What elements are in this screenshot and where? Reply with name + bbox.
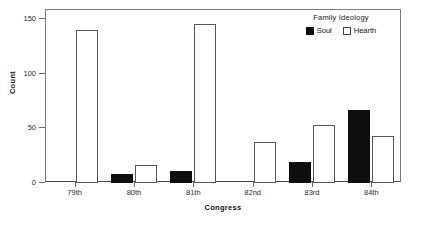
x-tick-label: 84th	[341, 188, 401, 197]
x-tick-mark	[312, 182, 313, 187]
x-tick-mark	[75, 182, 76, 187]
legend-item-hearth: Hearth	[343, 26, 377, 35]
bar-chart: Count 050100150 79th80th81th82nd83rd84th…	[0, 0, 425, 227]
x-tick-label: 83rd	[282, 188, 342, 197]
bar-83rd-hearth	[313, 125, 335, 183]
legend: Family Ideology SoulHearth	[285, 13, 397, 35]
bar-81th-soul	[170, 171, 192, 183]
legend-swatch-soul-icon	[306, 27, 314, 35]
y-tick-label: 50	[2, 123, 36, 132]
x-tick-mark	[253, 182, 254, 187]
bar-84th-hearth	[372, 136, 394, 183]
bar-79th-hearth	[76, 30, 98, 183]
x-tick-label: 79th	[45, 188, 105, 197]
x-axis-label: Congress	[45, 203, 401, 212]
x-tick-label: 81th	[163, 188, 223, 197]
y-tick-mark	[39, 182, 45, 183]
bar-83rd-soul	[289, 162, 311, 183]
legend-items: SoulHearth	[285, 26, 397, 35]
y-axis-label: Count	[8, 53, 17, 113]
bar-80th-soul	[111, 174, 133, 183]
y-tick-label: 0	[2, 178, 36, 187]
legend-swatch-hearth-icon	[343, 27, 351, 35]
x-tick-mark	[371, 182, 372, 187]
legend-label: Hearth	[354, 26, 377, 35]
y-tick-label: 150	[2, 13, 36, 22]
x-tick-label: 80th	[104, 188, 164, 197]
legend-title: Family Ideology	[285, 13, 397, 22]
bar-81th-hearth	[194, 24, 216, 183]
legend-label: Soul	[317, 26, 332, 35]
x-tick-label: 82nd	[223, 188, 283, 197]
bar-82nd-hearth	[254, 142, 276, 183]
y-tick-label: 100	[2, 68, 36, 77]
bar-84th-soul	[348, 110, 370, 183]
legend-item-soul: Soul	[306, 26, 332, 35]
x-tick-mark	[134, 182, 135, 187]
bar-80th-hearth	[135, 165, 157, 183]
x-tick-mark	[193, 182, 194, 187]
